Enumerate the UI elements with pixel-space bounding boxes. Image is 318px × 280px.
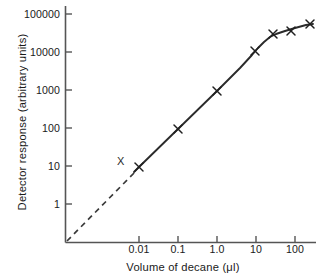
y-tick-label-1: 1 xyxy=(2,198,60,210)
x-axis-title-text: Volume of decane (μl) xyxy=(126,261,239,273)
figure-container: X 100000 10000 1000 100 10 1 0.01 0.1 1.… xyxy=(0,0,318,280)
y-tick-label-10000: 10000 xyxy=(2,46,60,58)
y-axis-ticks xyxy=(66,14,73,204)
data-point-markers xyxy=(135,20,314,171)
y-axis-title: Detector response (arbitrary units) xyxy=(16,4,28,240)
y-tick-label-1000: 1000 xyxy=(2,84,60,96)
data-point-0.1 xyxy=(174,125,182,133)
axes-group xyxy=(66,6,317,243)
y-tick-label-100: 100 xyxy=(2,122,60,134)
x-tick-label-100: 100 xyxy=(270,243,318,255)
x-axis-ticks xyxy=(139,236,295,243)
data-point-10 xyxy=(251,47,259,55)
data-point-1.0 xyxy=(213,87,221,95)
y-tick-label-10: 10 xyxy=(2,160,60,172)
y-tick-label-100000: 100000 xyxy=(2,8,60,20)
x-axis-title: Volume of decane (μl) xyxy=(0,261,318,273)
calibration-curve-line xyxy=(134,24,313,172)
extrapolation-dashed-line xyxy=(67,171,136,241)
log-log-plot xyxy=(0,0,318,280)
x-annotation-marker: X xyxy=(117,155,124,167)
data-point-0.01 xyxy=(135,163,143,171)
